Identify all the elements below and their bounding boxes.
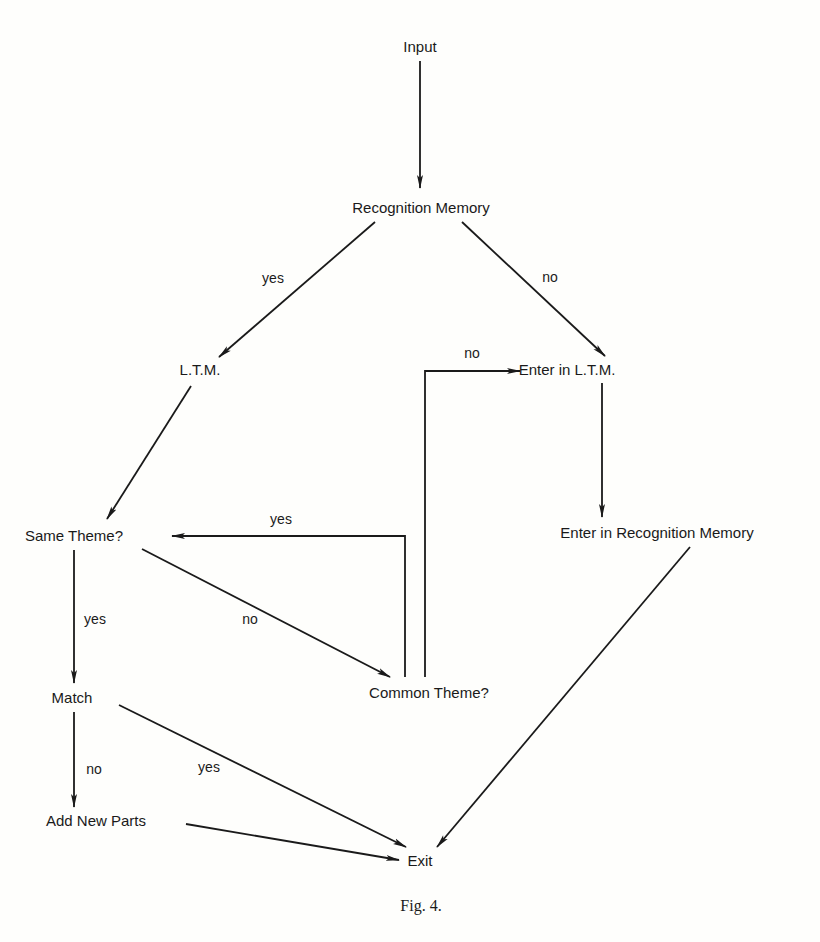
node-match: Match [52,690,93,705]
label-st-yes: yes [84,612,106,626]
node-enter-recognition-memory: Enter in Recognition Memory [560,525,753,540]
label-match-yes: yes [198,760,220,774]
flowchart-edges [0,0,820,942]
figure-caption: Fig. 4. [400,898,441,914]
edge-match-to-exit [119,705,406,847]
label-rm-no: no [542,270,558,284]
label-st-no: no [242,612,258,626]
edge-recognition-to-ltm [219,222,375,357]
flowchart-figure: Input Recognition Memory L.T.M. Enter in… [0,0,820,942]
edge-add-parts-to-exit [186,824,399,860]
edge-common-to-same-theme [172,536,405,677]
edge-common-to-enter-ltm [425,371,520,677]
node-enter-ltm: Enter in L.T.M. [519,362,616,377]
label-ct-yes: yes [270,512,292,526]
node-recognition-memory: Recognition Memory [352,200,490,215]
edge-recognition-to-enter-ltm [462,222,605,356]
label-ct-no: no [464,346,480,360]
edge-ltm-to-same-theme [107,386,191,519]
label-rm-yes: yes [262,271,284,285]
node-exit: Exit [407,853,432,868]
node-same-theme: Same Theme? [25,528,123,543]
node-add-new-parts: Add New Parts [46,813,146,828]
edge-same-to-common [142,549,390,677]
node-ltm: L.T.M. [180,362,221,377]
node-input: Input [403,39,436,54]
label-match-no: no [86,762,102,776]
node-common-theme: Common Theme? [369,685,489,700]
